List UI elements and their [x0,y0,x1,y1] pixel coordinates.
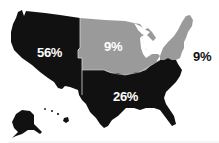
region-northeast [160,15,193,60]
label-midwest: 9% [104,40,122,53]
region-alaska [12,110,42,138]
region-hawaii [44,108,69,123]
label-northeast: 9% [193,50,211,63]
us-region-map [0,0,219,143]
label-south: 26% [113,90,138,103]
label-west: 56% [37,46,62,59]
